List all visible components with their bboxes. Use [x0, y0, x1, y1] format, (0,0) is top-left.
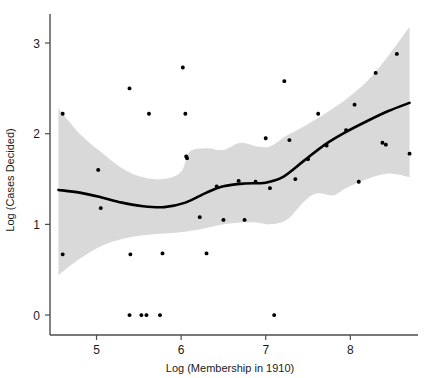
data-point [215, 184, 219, 188]
data-point [353, 103, 357, 107]
data-point [128, 252, 132, 256]
y-tick-label: 1 [33, 218, 40, 232]
x-tick-label: 6 [178, 343, 185, 357]
data-point [185, 156, 189, 160]
data-point [357, 180, 361, 184]
scatter-plot-figure: 0123 5678 Log (Membership in 1910) Log (… [0, 0, 426, 378]
data-point [243, 218, 247, 222]
y-tick-label: 2 [33, 127, 40, 141]
x-axis-title: Log (Membership in 1910) [166, 362, 294, 374]
data-point [316, 112, 320, 116]
x-tick-label: 8 [347, 343, 354, 357]
data-point [254, 180, 258, 184]
data-point [128, 313, 132, 317]
data-point [272, 313, 276, 317]
y-tick-label: 3 [33, 37, 40, 51]
data-point [374, 71, 378, 75]
x-axis-ticks: 5678 [93, 335, 354, 357]
data-point [408, 152, 412, 156]
data-point [147, 112, 151, 116]
y-tick-label: 0 [33, 309, 40, 323]
data-point [282, 79, 286, 83]
data-point [158, 313, 162, 317]
data-point [222, 218, 226, 222]
y-axis-group: 0123 [33, 14, 50, 335]
data-point [161, 251, 165, 255]
y-axis-title: Log (Cases Decided) [4, 128, 16, 231]
data-point [198, 215, 202, 219]
data-point [61, 112, 65, 116]
data-point [306, 157, 310, 161]
data-point [96, 168, 100, 172]
data-point [183, 112, 187, 116]
confidence-band [58, 27, 409, 275]
data-point [61, 252, 65, 256]
data-point [237, 179, 241, 183]
data-point [128, 86, 132, 90]
data-point [288, 138, 292, 142]
data-point [344, 128, 348, 132]
data-point [395, 52, 399, 56]
chart-canvas: 0123 5678 Log (Membership in 1910) Log (… [0, 0, 426, 378]
data-point [268, 186, 272, 190]
y-axis-ticks: 0123 [33, 37, 50, 323]
data-point [293, 177, 297, 181]
data-point [145, 313, 149, 317]
confidence-band-group [58, 27, 409, 275]
data-point [205, 251, 209, 255]
x-tick-label: 7 [262, 343, 269, 357]
data-point [181, 66, 185, 70]
x-axis-group: 5678 [50, 335, 418, 357]
data-point [264, 136, 268, 140]
data-point [381, 141, 385, 145]
data-point [139, 313, 143, 317]
data-point [384, 143, 388, 147]
x-tick-label: 5 [93, 343, 100, 357]
data-point [325, 144, 329, 148]
data-point [99, 206, 103, 210]
